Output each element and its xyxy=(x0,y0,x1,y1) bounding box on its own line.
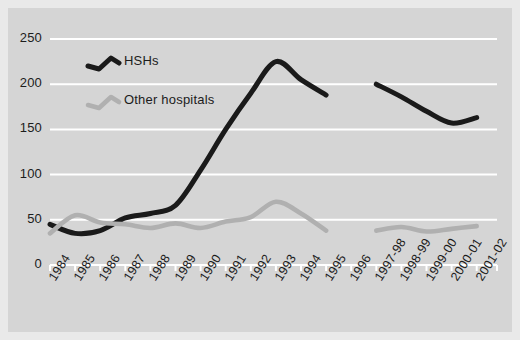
legend-marker-other-hospitals xyxy=(88,97,119,108)
series-line-other-hospitals xyxy=(50,202,326,234)
line-chart-canvas xyxy=(0,0,520,340)
legend-item-other-hospitals: Other hospitals xyxy=(124,92,214,107)
y-axis-tick-label: 100 xyxy=(8,166,42,181)
legend-marker-group xyxy=(88,58,119,108)
y-axis-tick-label: 0 xyxy=(8,256,42,271)
y-axis-tick-label: 200 xyxy=(8,75,42,90)
legend-item-hshs: HSHs xyxy=(124,53,159,68)
y-axis-tick-label: 250 xyxy=(8,30,42,45)
chart-figure: 250200150100500 198419851986198719881989… xyxy=(0,0,520,340)
series-line-hshs xyxy=(50,61,326,233)
series-line-other-hospitals xyxy=(376,226,476,231)
data-series-group xyxy=(50,61,477,233)
y-axis-tick-label: 150 xyxy=(8,120,42,135)
legend-marker-hshs xyxy=(88,58,119,69)
series-line-hshs xyxy=(376,84,476,123)
y-axis-tick-label: 50 xyxy=(8,211,42,226)
